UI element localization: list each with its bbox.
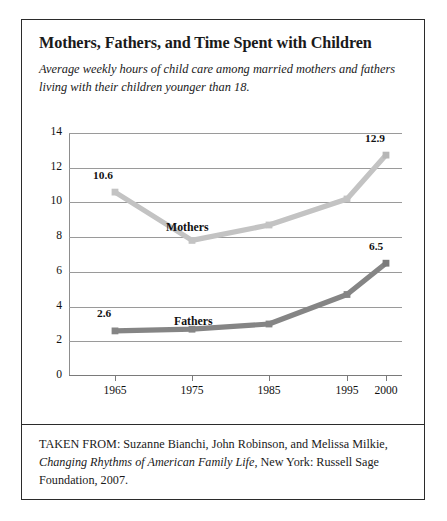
y-tick-label-10: 10 — [32, 194, 62, 207]
value-label-mothers-1965: 10.6 — [93, 169, 113, 181]
point-mothers-1995 — [344, 196, 351, 203]
source-citation: TAKEN FROM: Suzanne Bianchi, John Robins… — [39, 435, 411, 490]
figure-subtitle: Average weekly hours of child care among… — [39, 61, 411, 96]
value-label-fathers-2000: 6.5 — [369, 240, 383, 252]
y-tick-label-12: 12 — [32, 160, 62, 173]
y-tick-label-14: 14 — [32, 125, 62, 138]
point-mothers-1965 — [112, 189, 119, 196]
series-label-mothers: Mothers — [166, 220, 209, 235]
citation-book-title: Changing Rhythms of American Family Life — [39, 455, 254, 469]
y-tick-label-0: 0 — [32, 368, 62, 381]
x-tick-label-2000: 2000 — [363, 384, 409, 397]
x-tick-1965 — [115, 376, 116, 381]
series-lines — [69, 133, 402, 376]
point-mothers-1985 — [266, 222, 273, 229]
x-tick-1995 — [347, 376, 348, 381]
page-title: Mothers, Fathers, and Time Spent with Ch… — [39, 34, 372, 53]
series-label-fathers: Fathers — [174, 314, 213, 329]
point-fathers-1995 — [344, 291, 351, 298]
point-fathers-1985 — [266, 321, 273, 328]
x-tick-2000 — [386, 376, 387, 381]
value-label-mothers-2000: 12.9 — [365, 132, 385, 144]
x-tick-1975 — [192, 376, 193, 381]
x-tick-label-1965: 1965 — [92, 384, 138, 397]
point-fathers-1965 — [112, 328, 119, 335]
citation-prefix: TAKEN FROM: Suzanne Bianchi, John Robins… — [39, 437, 388, 451]
footer-divider — [22, 424, 424, 425]
y-tick-label-8: 8 — [32, 229, 62, 242]
figure-card: Mothers, Fathers, and Time Spent with Ch… — [21, 19, 425, 500]
x-tick-1985 — [269, 376, 270, 381]
point-mothers-2000 — [383, 152, 390, 159]
y-tick-label-2: 2 — [32, 333, 62, 346]
x-tick-label-1975: 1975 — [169, 384, 215, 397]
point-mothers-1975 — [189, 237, 196, 244]
point-fathers-2000 — [383, 260, 390, 267]
y-tick-label-6: 6 — [32, 264, 62, 277]
value-label-fathers-1965: 2.6 — [97, 307, 111, 319]
x-tick-label-1985: 1985 — [246, 384, 292, 397]
line-chart: 10.6 12.9 2.6 6.5 Mothers Fathers 024681… — [69, 133, 402, 376]
y-tick-label-4: 4 — [32, 299, 62, 312]
